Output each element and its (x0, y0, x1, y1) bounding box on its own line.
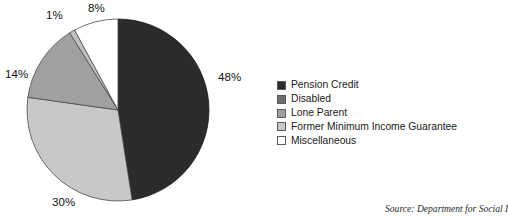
legend-swatch-icon (277, 95, 286, 104)
pie-chart-area: 48%30%14%1%8% (0, 0, 260, 217)
legend-swatch-icon (277, 122, 286, 131)
legend-swatch-icon (277, 81, 286, 90)
legend-item-label: Miscellaneous (291, 136, 356, 146)
pie-chart-svg (0, 0, 260, 217)
legend-item-label: Former Minimum Income Guarantee (291, 122, 457, 132)
legend-item: Miscellaneous (277, 134, 492, 147)
legend-item: Pension Credit (277, 79, 492, 92)
legend-swatch-icon (277, 109, 286, 118)
chart-legend: Pension CreditDisabledLone ParentFormer … (277, 79, 492, 148)
legend-item: Disabled (277, 93, 492, 106)
pie-slice-percent-label: 1% (46, 9, 63, 21)
pie-slice-percent-label: 8% (88, 2, 105, 14)
pie-slice (118, 19, 209, 200)
legend-item-label: Disabled (291, 94, 331, 104)
pie-slice-percent-label: 30% (52, 196, 75, 208)
pie-slice (27, 97, 132, 201)
legend-item: Lone Parent (277, 107, 492, 120)
pie-slice-percent-label: 14% (5, 68, 28, 80)
pie-slice-percent-label: 48% (218, 71, 241, 83)
legend-swatch-icon (277, 136, 286, 145)
source-note: Source: Department for Social I (385, 203, 508, 214)
legend-item-label: Lone Parent (291, 108, 347, 118)
legend-item: Former Minimum Income Guarantee (277, 120, 492, 133)
legend-item-label: Pension Credit (291, 80, 359, 90)
